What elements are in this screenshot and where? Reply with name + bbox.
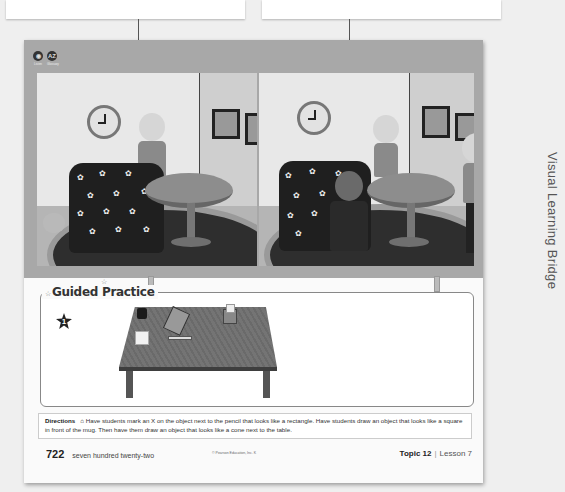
guided-practice-title: ☆Guided Practice: [42, 285, 158, 299]
picture-frame: [212, 109, 240, 139]
star-icon: ☆: [45, 290, 51, 298]
wall-clock: [297, 101, 331, 135]
sofa: ✿✿✿ ✿✿✿ ✿✿✿ ✿✿✿: [69, 163, 164, 253]
sticky-note[interactable]: [135, 331, 149, 345]
topic-lesson: Topic 12|Lesson 7: [400, 449, 472, 458]
pencil[interactable]: [168, 336, 192, 340]
lesson-label: Lesson 7: [440, 449, 472, 458]
page-number-words: seven hundred twenty-two: [72, 452, 154, 459]
tissue-box[interactable]: [223, 309, 237, 324]
visual-learning-panel: ◉ Listen AZ Glossary ✿✿✿ ✿✿✿: [24, 40, 483, 278]
callout-box-left: [6, 0, 245, 19]
page-footer: 722 seven hundred twenty-two © Pearson E…: [46, 448, 472, 460]
table-base: [389, 237, 429, 247]
picture-frame: [245, 113, 257, 145]
desk-leg: [126, 371, 133, 398]
girl-character: [371, 115, 401, 177]
wall-clock: [87, 105, 121, 139]
desk-edge: [119, 367, 277, 371]
az-glossary-icon: AZ: [47, 51, 57, 61]
listen-label: Listen: [33, 62, 43, 66]
table-base: [171, 237, 211, 247]
listen-button[interactable]: ◉ Listen: [33, 51, 43, 66]
guided-practice-title-text: Guided Practice: [52, 285, 155, 299]
glossary-label: Glossary: [47, 62, 57, 66]
directions-label: Directions: [45, 417, 75, 424]
boy-character: [329, 171, 369, 251]
scene-panel-1: ✿✿✿ ✿✿✿ ✿✿✿ ✿✿✿: [37, 73, 257, 266]
directions-text: Have students mark an X on the object ne…: [45, 417, 462, 433]
topic-label: Topic 12: [400, 449, 432, 458]
side-label: Visual Learning Bridge: [540, 152, 560, 302]
boy-with-glasses-character: [459, 133, 474, 253]
picture-frame: [422, 106, 450, 138]
glossary-button[interactable]: AZ Glossary: [47, 51, 57, 66]
callout-box-right: [262, 0, 501, 19]
desk-leg: [263, 371, 270, 398]
page-number: 722: [46, 448, 64, 460]
media-toolbar: ◉ Listen AZ Glossary: [33, 51, 57, 66]
table-leg: [187, 203, 195, 241]
mug[interactable]: [137, 308, 147, 319]
cat: [43, 213, 65, 233]
copyright: © Pearson Education, Inc. K: [212, 451, 256, 455]
glossary-icon: ◉: [33, 51, 43, 61]
table-leg: [407, 203, 415, 241]
directions-box: Directions⌂ Have students mark an X on t…: [38, 413, 472, 439]
scene-panel-2: ✿✿✿ ✿✿ ✿✿ ✿: [259, 73, 474, 266]
clip-right: [434, 276, 440, 292]
